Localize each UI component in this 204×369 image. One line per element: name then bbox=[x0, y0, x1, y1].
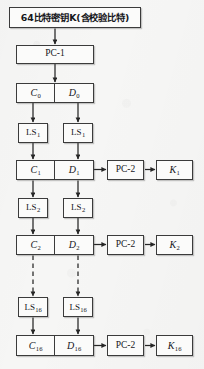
node-d0-sub: 0 bbox=[76, 92, 79, 99]
node-d1: D1 bbox=[55, 161, 93, 179]
node-ls16-left: LS16 bbox=[18, 297, 48, 317]
node-d16: D16 bbox=[55, 336, 93, 355]
node-key-input: 64比特密钥K(含校验比特) bbox=[9, 7, 141, 28]
node-pc2-round2-label: PC-2 bbox=[116, 240, 136, 250]
node-d1-label: D bbox=[69, 164, 76, 175]
node-pc2-round2: PC-2 bbox=[107, 235, 144, 255]
node-d2: D2 bbox=[55, 236, 93, 254]
node-pc2-round1-label: PC-2 bbox=[116, 165, 136, 175]
node-c16: C16 bbox=[17, 336, 55, 355]
node-d0-label: D bbox=[69, 87, 76, 98]
node-pc2-round16: PC-2 bbox=[107, 335, 144, 356]
node-ls2-right-sub: 2 bbox=[82, 206, 85, 213]
node-c1-sub: 1 bbox=[37, 169, 40, 176]
node-ls16-right-sub: 16 bbox=[80, 306, 87, 313]
node-k16-sub: 16 bbox=[175, 345, 182, 352]
node-c0: C0 bbox=[17, 84, 55, 102]
node-d0: D0 bbox=[55, 84, 93, 102]
node-d2-label: D bbox=[69, 239, 76, 250]
node-ls16-left-sub: 16 bbox=[35, 306, 42, 313]
node-round1: C1 D1 bbox=[16, 160, 94, 180]
node-pc2-round1: PC-2 bbox=[107, 160, 144, 180]
node-c2: C2 bbox=[17, 236, 55, 254]
node-k16: K16 bbox=[156, 335, 193, 356]
node-k2: K2 bbox=[156, 235, 193, 255]
node-c1: C1 bbox=[17, 161, 55, 179]
diagram-canvas: 64比特密钥K(含校验比特) PC-1 C0 D0 LS1 LS1 C1 D1 … bbox=[0, 0, 204, 369]
node-pc2-round16-label: PC-2 bbox=[116, 341, 136, 351]
node-ls1-right: LS1 bbox=[63, 123, 93, 143]
node-ls2-right: LS2 bbox=[63, 198, 93, 218]
node-d16-sub: 16 bbox=[75, 345, 82, 352]
node-ls1-left: LS1 bbox=[18, 123, 48, 143]
node-k1-sub: 1 bbox=[176, 169, 179, 176]
node-round0: C0 D0 bbox=[16, 83, 94, 103]
node-key-input-label: 64比特密钥K(含校验比特) bbox=[21, 13, 129, 22]
node-k1: K1 bbox=[156, 160, 193, 180]
node-k16-label: K bbox=[168, 340, 175, 351]
node-c16-label: C bbox=[29, 340, 36, 351]
node-ls1-left-label: LS bbox=[26, 127, 37, 137]
node-round2: C2 D2 bbox=[16, 235, 94, 255]
node-c16-sub: 16 bbox=[36, 345, 43, 352]
node-pc1: PC-1 bbox=[16, 45, 94, 64]
node-ls16-right-label: LS bbox=[69, 302, 80, 312]
node-ls16-left-label: LS bbox=[24, 302, 35, 312]
node-d1-sub: 1 bbox=[76, 169, 79, 176]
node-round16: C16 D16 bbox=[16, 335, 94, 356]
node-d16-label: D bbox=[67, 340, 74, 351]
node-ls2-left-label: LS bbox=[26, 202, 37, 212]
node-ls2-left-sub: 2 bbox=[37, 206, 40, 213]
node-c2-sub: 2 bbox=[37, 244, 40, 251]
node-ls1-right-sub: 1 bbox=[82, 131, 85, 138]
node-d2-sub: 2 bbox=[76, 244, 79, 251]
node-k2-sub: 2 bbox=[176, 244, 179, 251]
node-ls1-left-sub: 1 bbox=[37, 131, 40, 138]
node-c0-sub: 0 bbox=[37, 92, 40, 99]
node-ls2-left: LS2 bbox=[18, 198, 48, 218]
node-ls16-right: LS16 bbox=[63, 297, 93, 317]
node-pc1-label: PC-1 bbox=[45, 49, 65, 59]
node-ls2-right-label: LS bbox=[71, 202, 82, 212]
node-ls1-right-label: LS bbox=[71, 127, 82, 137]
